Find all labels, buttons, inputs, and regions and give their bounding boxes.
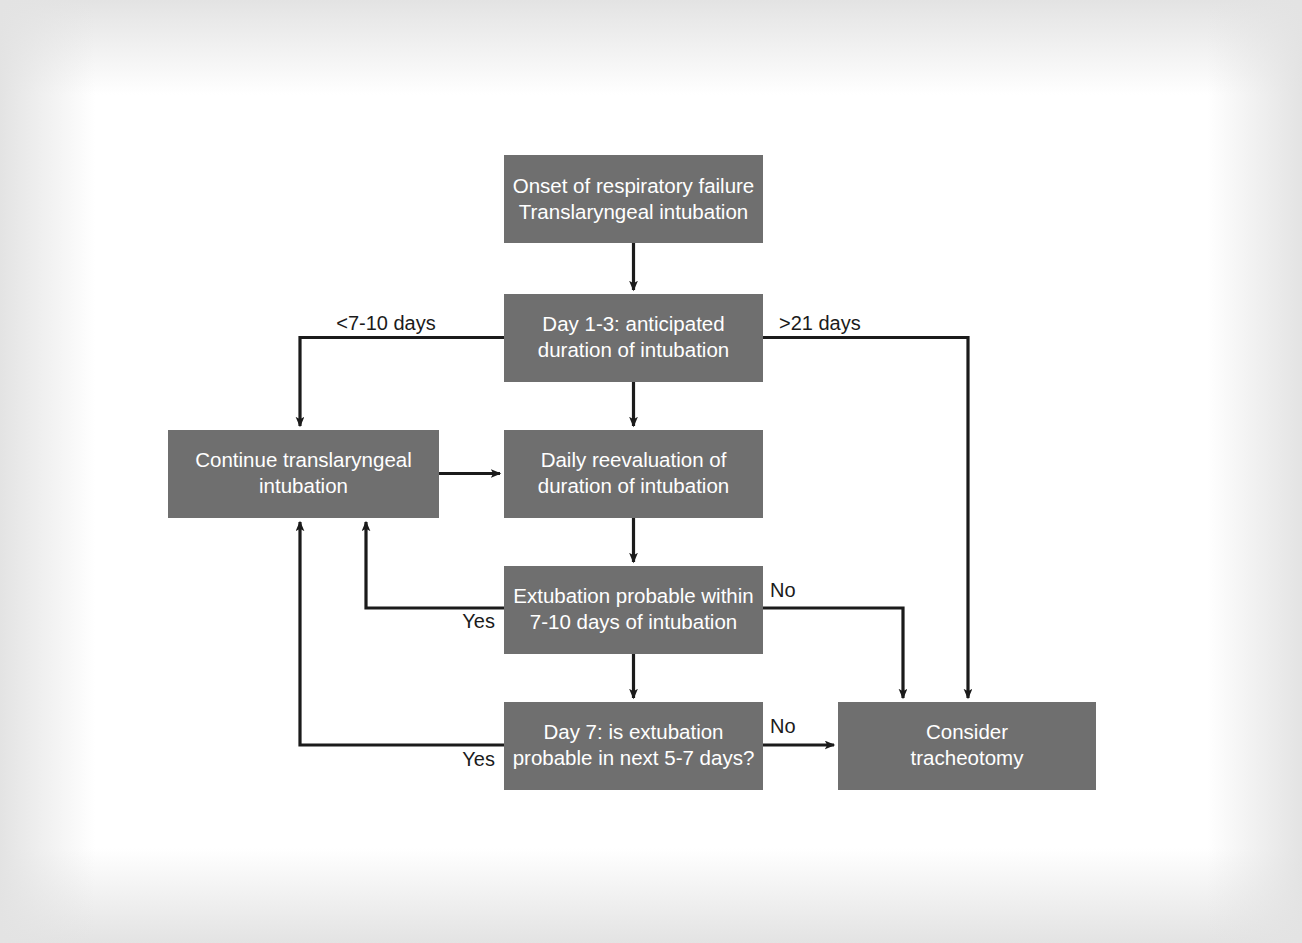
node-day13[interactable]: Day 1-3: anticipated duration of intubat… [504, 294, 763, 382]
node-continue[interactable]: Continue translaryngeal intubation [168, 430, 439, 518]
node-tracheotomy-line2: tracheotomy [911, 746, 1025, 769]
edge-day13-long-duration: >21 days [763, 312, 968, 698]
node-onset[interactable]: Onset of respiratory failure Translaryng… [504, 155, 763, 243]
edge-extubation-yes: Yes [366, 522, 504, 632]
flowchart-canvas: <7-10 days >21 days Yes No [0, 0, 1302, 943]
node-extubation-line1: Extubation probable within [513, 584, 753, 607]
edge-label-extubation-no: No [770, 579, 796, 601]
node-extubation-line2: 7-10 days of intubation [530, 610, 737, 633]
node-day7[interactable]: Day 7: is extubation probable in next 5-… [504, 702, 763, 790]
node-daily-line2: duration of intubation [538, 474, 729, 497]
edge-label-extubation-yes: Yes [462, 610, 495, 632]
node-day7-line1: Day 7: is extubation [543, 720, 723, 743]
node-onset-line1: Onset of respiratory failure [513, 174, 755, 197]
edge-label-short-duration: <7-10 days [336, 312, 436, 334]
node-continue-line1: Continue translaryngeal [195, 448, 412, 471]
edge-label-day7-yes: Yes [462, 748, 495, 770]
node-daily[interactable]: Daily reevaluation of duration of intuba… [504, 430, 763, 518]
node-daily-line1: Daily reevaluation of [541, 448, 727, 471]
edge-day13-short-duration: <7-10 days [300, 312, 504, 426]
node-day13-line1: Day 1-3: anticipated [542, 312, 724, 335]
node-extubation[interactable]: Extubation probable within 7-10 days of … [504, 566, 763, 654]
edge-label-long-duration: >21 days [779, 312, 861, 334]
node-day13-line2: duration of intubation [538, 338, 729, 361]
node-continue-line2: intubation [259, 474, 348, 497]
node-tracheotomy[interactable]: Consider tracheotomy [838, 702, 1096, 790]
node-tracheotomy-line1: Consider [926, 720, 1008, 743]
figure-page: <7-10 days >21 days Yes No [0, 0, 1302, 943]
edge-day7-no: No [763, 715, 834, 745]
edge-extubation-no: No [763, 579, 903, 698]
node-day7-line2: probable in next 5-7 days? [513, 746, 755, 769]
edge-day7-yes: Yes [300, 522, 504, 770]
node-onset-line2: Translaryngeal intubation [519, 200, 748, 223]
edge-label-day7-no: No [770, 715, 796, 737]
